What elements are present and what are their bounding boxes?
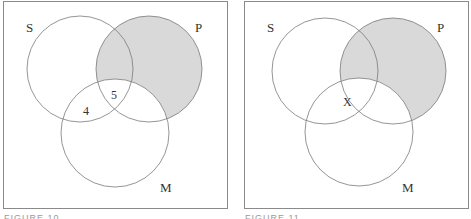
region-mark-s-p-m: 5: [111, 88, 117, 102]
label-s: S: [26, 20, 33, 35]
region-mark-s-m: 4: [83, 104, 89, 118]
venn-svg: S P M 4 5: [0, 0, 232, 212]
figure-caption: FIGURE 11: [245, 213, 300, 219]
region-mark-x: X: [343, 95, 352, 109]
label-s: S: [267, 20, 274, 35]
shaded-region-p-not-m: [96, 16, 202, 122]
venn-svg: S P M X: [241, 0, 471, 212]
label-p: P: [195, 20, 202, 35]
venn-diagram-figure-11: S P M X FIGURE 11: [241, 0, 471, 219]
shaded-region-p-not-m: [340, 18, 446, 124]
figure-caption: FIGURE 10: [4, 213, 60, 219]
label-m: M: [160, 180, 172, 195]
label-m: M: [402, 180, 414, 195]
label-p: P: [437, 20, 444, 35]
venn-diagram-figure-10: S P M 4 5 FIGURE 10: [0, 0, 230, 219]
